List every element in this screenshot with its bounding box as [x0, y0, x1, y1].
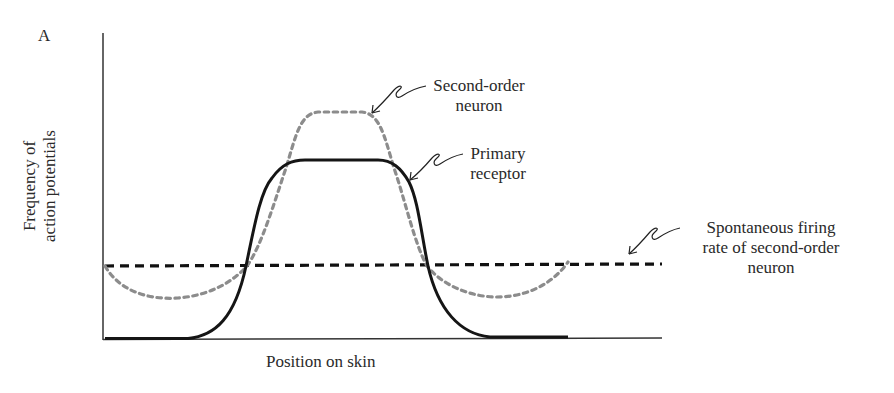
- figure-panel-a: A Frequency of action potentials Positio…: [0, 0, 894, 393]
- primary-receptor-curve: [105, 160, 568, 339]
- primary-receptor-arrow-icon: [410, 154, 463, 180]
- x-axis-label: Position on skin: [266, 352, 376, 372]
- spontaneous-rate-arrow-icon: [629, 228, 680, 254]
- annotation-line: rate of second-order: [676, 238, 866, 258]
- y-axis-label-line-1: Frequency of: [20, 101, 40, 271]
- annotation-line: receptor: [460, 164, 536, 184]
- annotation-spontaneous-rate: Spontaneous firing rate of second-order …: [676, 218, 866, 278]
- plot-area: [0, 0, 894, 393]
- panel-letter: A: [38, 26, 50, 46]
- y-axis-label: Frequency of action potentials: [20, 101, 60, 271]
- annotation-line: Second-order: [424, 76, 534, 96]
- annotation-line: Primary: [460, 144, 536, 164]
- y-axis-label-line-2: action potentials: [40, 101, 60, 271]
- annotation-line: neuron: [676, 258, 866, 278]
- annotation-line: neuron: [424, 96, 534, 116]
- annotation-second-order-neuron: Second-order neuron: [424, 76, 534, 116]
- annotation-line: Spontaneous firing: [676, 218, 866, 238]
- spontaneous-rate-line: [105, 264, 662, 266]
- annotation-primary-receptor: Primary receptor: [460, 144, 536, 184]
- second-order-arrow-icon: [372, 86, 426, 113]
- second-order-curve: [105, 112, 568, 298]
